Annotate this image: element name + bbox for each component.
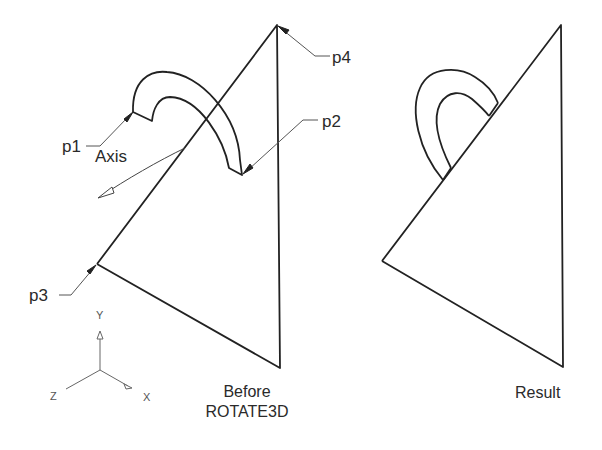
caption-before: Before ROTATE3D bbox=[192, 382, 302, 422]
label-p4: p4 bbox=[332, 49, 351, 66]
caption-result: Result bbox=[515, 383, 602, 403]
ucs-icon bbox=[66, 331, 132, 389]
before-arc-solid bbox=[133, 72, 242, 175]
label-p3: p3 bbox=[29, 287, 48, 304]
label-p1: p1 bbox=[62, 138, 81, 155]
ucs-label-z: Z bbox=[50, 391, 57, 402]
label-axis: Axis bbox=[95, 148, 127, 165]
ucs-label-x: X bbox=[143, 392, 150, 403]
label-p2: p2 bbox=[322, 113, 341, 130]
caption-before-line2: ROTATE3D bbox=[192, 402, 302, 422]
before-triangle bbox=[97, 25, 280, 368]
ucs-label-y: Y bbox=[96, 310, 103, 321]
caption-before-line1: Before bbox=[192, 382, 302, 402]
